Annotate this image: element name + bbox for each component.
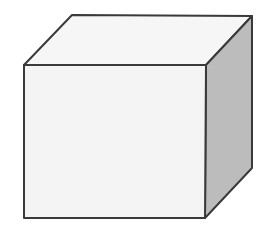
cube-front-face (24, 65, 206, 218)
cube-diagram (0, 0, 268, 232)
